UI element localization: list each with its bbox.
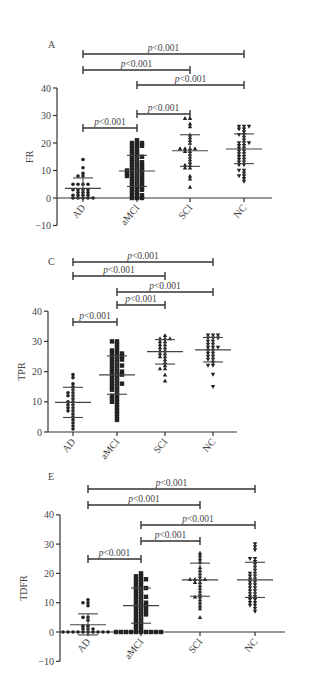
y-tick-label: 30 [44,539,54,550]
data-point [110,400,114,404]
y-tick-label: 30 [32,336,42,347]
y-tick-label: 20 [32,366,42,377]
data-point [110,388,114,392]
data-point [163,372,167,376]
y-tick-label: 10 [44,597,54,608]
data-point [140,196,144,200]
data-point [120,381,124,385]
data-point [81,630,85,634]
p-value-label: p<0.001 [78,311,111,321]
y-tick-label: 20 [41,138,51,149]
data-point [211,364,215,368]
data-point [130,196,134,200]
data-point [211,373,215,377]
data-point [248,604,252,608]
panel-e: E−10010203040TDFRADaMCISCINCp<0.001p<0.0… [18,471,285,667]
data-point [216,346,220,350]
y-tick-label: 0 [49,627,54,638]
data-point [119,630,123,634]
data-point [115,418,119,422]
data-point [71,427,75,431]
data-point [211,385,215,389]
data-point [193,146,197,150]
data-point [71,182,75,186]
x-tick-label: NC [242,636,260,654]
data-point [125,174,129,178]
x-tick-label: AD [75,636,93,654]
data-point [253,548,257,552]
data-point [101,630,105,634]
data-point [206,358,210,362]
data-point [106,630,110,634]
y-tick-label: 0 [46,193,51,204]
data-point [242,180,246,184]
data-point [96,630,100,634]
p-value-label: p<0.001 [98,548,131,558]
data-point [253,610,257,614]
data-point [86,604,90,608]
data-point [183,116,187,120]
data-point [61,630,65,634]
data-point [134,630,138,634]
panel-label: E [48,471,54,482]
data-point [81,166,85,170]
data-point [139,630,143,634]
p-value-label: p<0.001 [174,74,207,84]
y-tick-label: 40 [32,306,42,317]
data-point [247,141,251,145]
x-tick-label: AD [70,202,88,220]
data-point [144,630,148,634]
p-value-label: p<0.001 [147,43,180,53]
y-tick-label: 20 [44,568,54,579]
data-point [114,630,118,634]
data-point [237,174,241,178]
data-point [71,630,75,634]
data-point [188,577,192,581]
data-point [135,196,139,200]
p-value-label: p<0.001 [127,494,160,504]
data-point [76,182,80,186]
data-point [247,125,251,129]
x-tick-label: aMCI [118,202,141,227]
y-tick-label: 10 [41,165,51,176]
data-point [81,174,85,178]
figure-canvas: A−10010203040FRADaMCISCINCp<0.001p<0.001… [0,0,314,687]
x-tick-label: aMCI [98,436,121,461]
x-tick-label: NC [231,202,249,220]
data-point [81,616,85,620]
data-point [66,394,70,398]
y-tick-label: 0 [37,427,42,438]
data-point [71,376,75,380]
data-point [149,630,153,634]
data-point [120,363,124,367]
x-tick-label: SCI [176,202,194,221]
data-point [237,169,241,173]
data-point [206,364,210,368]
y-axis-label: FR [24,150,35,163]
data-point [66,630,70,634]
data-point [76,630,80,634]
x-tick-label: SCI [151,436,169,455]
data-point [110,339,114,343]
data-point [154,630,158,634]
y-tick-label: 30 [41,110,51,121]
p-value-label: p<0.001 [120,59,153,69]
p-value-label: p<0.001 [147,103,180,113]
data-point [163,378,167,382]
data-point [248,557,252,561]
panel-label: A [48,39,56,50]
data-point [198,615,202,619]
data-point [129,630,133,634]
data-point [144,595,148,599]
data-point [158,366,162,370]
y-tick-label: 40 [41,83,51,94]
p-value-label: p<0.001 [126,251,159,261]
data-point [178,146,182,150]
data-point [66,409,70,413]
p-value-label: p<0.001 [102,265,135,275]
data-point [188,185,192,189]
p-value-label: p<0.001 [155,478,188,488]
data-point [81,158,85,162]
x-tick-label: aMCI [122,636,145,661]
p-value-label: p<0.001 [124,294,157,304]
